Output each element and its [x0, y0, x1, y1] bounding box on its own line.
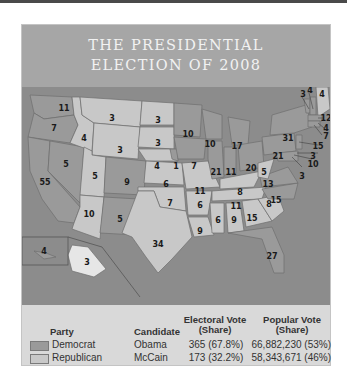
label-TN: 11 [230, 202, 242, 211]
label-TX: 34 [152, 240, 164, 249]
us-electoral-map: 11 7 55 5 4 3 3 5 10 9 5 3 3 4 1 6 7 34 … [22, 87, 330, 305]
label-PA: 21 [272, 152, 284, 161]
header-electoral-vote: Electoral Vote (Share) [170, 315, 260, 335]
header-popular-line2: (Share) [250, 325, 334, 335]
label-MD: 10 [307, 160, 319, 169]
label-IL: 21 [210, 168, 222, 177]
label-WY: 3 [117, 146, 123, 155]
label-NV: 5 [63, 160, 69, 169]
page-title: THE PRESIDENTIAL ELECTION OF 2008 [22, 35, 330, 75]
state-WI [202, 109, 222, 139]
row-democrat-electoral: 365 (67.8%) [176, 339, 256, 351]
label-ID: 4 [81, 134, 87, 143]
label-MO: 11 [194, 187, 206, 196]
state-FL [228, 227, 284, 273]
label-VT: 3 [300, 90, 306, 99]
label-MS: 6 [215, 216, 221, 225]
label-MT: 3 [109, 114, 115, 123]
label-NH: 4 [307, 87, 313, 95]
label-MA: 12 [320, 114, 330, 123]
label-MI: 17 [231, 142, 242, 151]
title-line-2: ELECTION OF 2008 [22, 55, 330, 75]
label-NC: 15 [270, 196, 282, 205]
label-OH: 20 [245, 164, 257, 173]
top-border [0, 0, 347, 3]
label-CT: 7 [323, 132, 329, 141]
label-HI: 4 [41, 247, 47, 256]
label-FL: 27 [266, 252, 277, 261]
title-line-1: THE PRESIDENTIAL [22, 35, 330, 55]
map-svg: 11 7 55 5 4 3 3 5 10 9 5 3 3 4 1 6 7 34 … [22, 87, 330, 305]
label-KY: 8 [237, 188, 243, 197]
row-democrat-candidate: Obama [134, 339, 167, 351]
label-KS: 6 [163, 180, 169, 189]
state-IA [174, 137, 206, 159]
label-UT: 5 [92, 172, 98, 181]
label-AR: 6 [197, 201, 203, 210]
label-AK: 3 [84, 258, 90, 267]
label-SD: 3 [155, 139, 161, 148]
state-WY [92, 123, 140, 159]
label-NJ: 15 [312, 142, 324, 151]
row-republican-candidate: McCain [134, 352, 168, 364]
label-WI: 10 [204, 140, 216, 149]
results-legend-table: Party Candidate Electoral Vote (Share) P… [22, 305, 330, 365]
label-MN: 10 [182, 130, 194, 139]
label-CO: 9 [124, 178, 130, 187]
label-CA: 55 [39, 178, 51, 187]
label-WV: 5 [261, 168, 267, 177]
state-CT-RI [308, 121, 320, 127]
label-IN: 11 [225, 168, 237, 177]
label-LA: 9 [197, 227, 203, 236]
label-OR: 7 [51, 124, 57, 133]
election-map-panel: THE PRESIDENTIAL ELECTION OF 2008 [21, 24, 331, 366]
label-AL: 9 [231, 216, 237, 225]
label-OK: 7 [167, 199, 173, 208]
label-NM: 5 [117, 215, 123, 224]
label-AZ: 10 [83, 210, 95, 219]
democrat-swatch [30, 341, 49, 351]
label-WA: 11 [58, 104, 70, 113]
label-NY: 31 [282, 134, 294, 143]
row-republican-electoral: 173 (32.2%) [176, 352, 256, 364]
label-GA: 15 [246, 214, 258, 223]
label-ND: 3 [155, 116, 161, 125]
row-republican-party: Republican [52, 352, 102, 364]
label-VA: 13 [262, 180, 273, 189]
row-republican-popular: 58,343,671 (46%) [247, 352, 331, 364]
label-NE: 4 [154, 162, 160, 171]
label-ME: 4 [319, 90, 325, 99]
header-popular-vote: Popular Vote (Share) [250, 315, 334, 335]
state-MI [228, 117, 250, 145]
row-democrat-popular: 66,882,230 (53%) [247, 339, 331, 351]
label-DC: 3 [299, 172, 305, 181]
header-party: Party [50, 327, 74, 337]
label-NE2: 1 [173, 162, 179, 171]
republican-swatch [30, 354, 49, 364]
title-header: THE PRESIDENTIAL ELECTION OF 2008 [22, 25, 330, 87]
row-democrat-party: Democrat [52, 339, 95, 351]
header-electoral-line2: (Share) [170, 325, 260, 335]
label-IA: 7 [191, 162, 197, 171]
